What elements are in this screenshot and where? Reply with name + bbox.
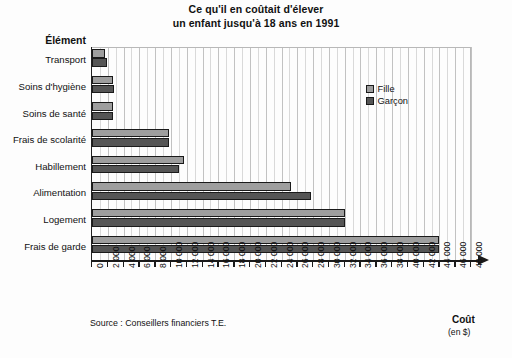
bar-fille [92, 49, 105, 57]
x-tick-label: 10 000 [174, 242, 184, 268]
x-tick [312, 260, 313, 267]
legend-swatch-icon [366, 97, 374, 105]
x-axis-units: (en $) [448, 327, 470, 337]
bar-fille [92, 156, 184, 164]
bar-group [92, 74, 471, 101]
bar-garcon [92, 112, 113, 120]
x-tick-label: 28 000 [316, 242, 326, 268]
x-tick [107, 260, 108, 267]
x-tick-label: 8 000 [158, 246, 168, 268]
x-tick-label: 0 [95, 263, 105, 268]
x-axis-title: Coût [452, 314, 475, 325]
x-tick [359, 260, 360, 267]
x-tick [170, 260, 171, 267]
x-tick-label: 34 000 [363, 242, 373, 268]
legend-swatch-icon [366, 85, 374, 93]
x-tick-label: 26 000 [300, 242, 310, 268]
source-note: Source : Conseillers financiers T.E. [90, 318, 226, 328]
x-tick-label: 38 000 [395, 242, 405, 268]
x-tick [91, 260, 92, 267]
category-label: Alimentation [0, 187, 86, 198]
plot-area [91, 47, 471, 260]
x-tick [407, 260, 408, 267]
x-tick-label: 36 000 [379, 242, 389, 268]
category-label: Frais de scolarité [0, 134, 86, 145]
bar-fille [92, 129, 169, 137]
x-tick [233, 260, 234, 267]
x-tick [438, 260, 439, 267]
bar-fille [92, 182, 291, 190]
chart-page: Ce qu'il en coûtait d'élever un enfant j… [0, 0, 512, 358]
bar-group [92, 207, 471, 234]
x-tick [138, 260, 139, 267]
x-tick-label: 22 000 [269, 242, 279, 268]
category-label: Habillement [0, 161, 86, 172]
x-tick [375, 260, 376, 267]
x-tick-label: 16 000 [221, 242, 231, 268]
category-label: Logement [0, 214, 86, 225]
x-tick-label: 48 000 [474, 242, 484, 268]
legend-label: Fille [378, 84, 395, 94]
x-tick [265, 260, 266, 267]
bar-fille [92, 76, 113, 84]
bar-garcon [92, 85, 114, 93]
x-tick-label: 32 000 [348, 242, 358, 268]
chart-title: Ce qu'il en coûtait d'élever un enfant j… [0, 3, 512, 30]
y-axis-title: Élément [0, 34, 86, 46]
category-label: Frais de garde [0, 241, 86, 252]
gridline [471, 47, 472, 260]
x-tick [249, 260, 250, 267]
x-tick-label: 12 000 [190, 242, 200, 268]
bar-group [92, 154, 471, 181]
x-tick-label: 42 000 [427, 242, 437, 268]
bar-garcon [92, 192, 311, 200]
chart-legend: FilleGarçon [366, 83, 408, 107]
bar-fille [92, 102, 113, 110]
bar-group [92, 180, 471, 207]
x-tick-label: 44 000 [442, 242, 452, 268]
x-tick-label: 46 000 [458, 242, 468, 268]
x-tick [344, 260, 345, 267]
x-tick-label: 6 000 [142, 246, 152, 268]
x-tick-label: 18 000 [237, 242, 247, 268]
x-tick [470, 260, 471, 267]
x-tick [217, 260, 218, 267]
legend-label: Garçon [378, 96, 409, 106]
x-tick [281, 260, 282, 267]
bar-fille [92, 209, 345, 217]
x-tick-label: 2 000 [111, 246, 121, 268]
bar-garcon [92, 165, 179, 173]
x-tick-label: 4 000 [127, 246, 137, 268]
bar-group [92, 127, 471, 154]
bar-garcon [92, 58, 107, 66]
x-tick-label: 20 000 [253, 242, 263, 268]
bar-group [92, 47, 471, 74]
legend-item: Fille [366, 83, 408, 95]
category-label: Soins d'hygiène [0, 81, 86, 92]
x-tick-label: 40 000 [411, 242, 421, 268]
chart-title-line-1: Ce qu'il en coûtait d'élever [0, 3, 512, 17]
x-tick [391, 260, 392, 267]
category-label: Soins de santé [0, 108, 86, 119]
x-tick [202, 260, 203, 267]
x-tick-label: 14 000 [206, 242, 216, 268]
x-tick [154, 260, 155, 267]
chart-title-line-2: un enfant jusqu'à 18 ans en 1991 [0, 17, 512, 31]
x-tick [296, 260, 297, 267]
x-tick [328, 260, 329, 267]
legend-item: Garçon [366, 95, 408, 107]
bar-garcon [92, 138, 169, 146]
x-tick [423, 260, 424, 267]
x-tick [186, 260, 187, 267]
bar-garcon [92, 218, 345, 226]
x-tick-label: 24 000 [285, 242, 295, 268]
x-tick [123, 260, 124, 267]
category-label: Transport [0, 54, 86, 65]
x-tick [454, 260, 455, 267]
x-tick-label: 30 000 [332, 242, 342, 268]
bar-group [92, 100, 471, 127]
